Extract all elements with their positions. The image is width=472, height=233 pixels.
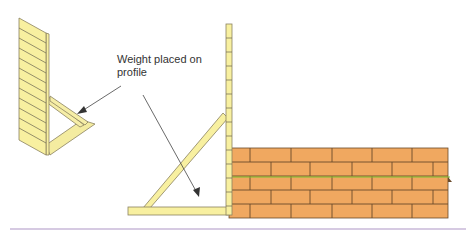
isometric-profile-figure	[19, 18, 95, 155]
annotation-label: Weight placed on profile	[117, 53, 227, 79]
annotation-line-1: Weight placed on	[117, 53, 227, 66]
brick-wall	[229, 148, 452, 218]
arrow-head-left	[77, 106, 87, 114]
base-plate	[128, 207, 228, 215]
arrow-head-right	[193, 187, 200, 197]
flood-barrier-diagram	[0, 0, 472, 233]
diagonal-brace	[143, 113, 228, 208]
annotation-line-2: profile	[117, 66, 227, 79]
annotation-arrows	[77, 86, 200, 197]
